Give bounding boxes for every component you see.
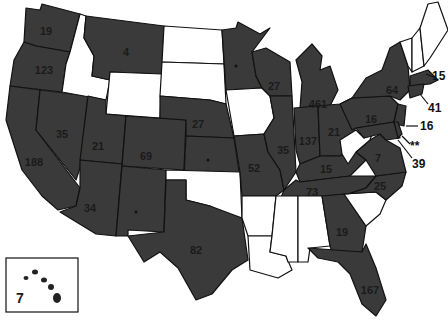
marker-mn <box>235 65 238 68</box>
marker-ks <box>207 159 210 162</box>
marker-nm <box>135 211 138 214</box>
leader-de <box>402 136 410 144</box>
label-va: 7 <box>375 152 381 164</box>
callout-md: 39 <box>412 157 425 171</box>
label-ca: 188 <box>25 156 43 168</box>
label-co: 69 <box>140 150 152 162</box>
label-az: 34 <box>84 202 96 214</box>
label-ky: 15 <box>320 163 332 175</box>
label-pa: 16 <box>365 113 377 125</box>
island <box>53 293 61 303</box>
label-fl: 167 <box>361 284 379 296</box>
label-mo: 52 <box>248 162 260 174</box>
label-oh: 21 <box>328 126 340 138</box>
state-co <box>122 116 186 170</box>
island <box>24 276 29 280</box>
island <box>41 278 47 283</box>
callout-nj: 16 <box>420 119 433 133</box>
state-fl <box>308 244 386 316</box>
label-il: 35 <box>277 144 289 156</box>
label-nc: 25 <box>374 180 386 192</box>
leader-ct <box>420 94 428 104</box>
label-or: 123 <box>35 64 53 76</box>
label-wa: 19 <box>40 25 52 37</box>
callout-ma: 15 <box>432 69 445 83</box>
state-ar <box>242 196 276 236</box>
island <box>48 284 54 290</box>
label-ne: 27 <box>192 118 204 130</box>
callout-de: ** <box>410 139 419 153</box>
label-ny: 64 <box>386 84 398 96</box>
state-me <box>420 2 448 66</box>
label-in: 137 <box>299 135 317 147</box>
island <box>32 270 38 275</box>
label-tn: 73 <box>306 186 318 198</box>
state-ny <box>352 42 410 100</box>
state-wy <box>106 72 162 118</box>
label-ut: 21 <box>92 140 104 152</box>
label-nv: 35 <box>56 128 68 140</box>
label-mt: 4 <box>123 46 129 58</box>
label-hi: 7 <box>16 290 24 306</box>
label-mi: 461 <box>309 98 327 110</box>
label-tx: 82 <box>190 244 202 256</box>
state-nm <box>116 166 166 236</box>
state-nd <box>162 26 224 64</box>
callout-ct: 41 <box>428 101 441 115</box>
label-wi: 27 <box>268 80 280 92</box>
label-ga: 19 <box>336 226 348 238</box>
